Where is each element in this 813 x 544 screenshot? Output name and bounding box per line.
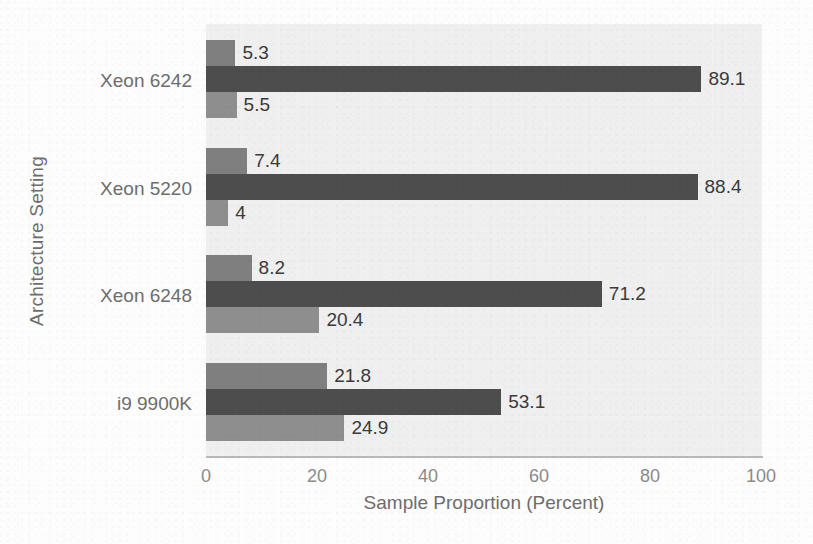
bar-value-bsr-xeon-6248: 8.2 [259,255,285,281]
bar-bsr-i9-9900k[interactable] [206,363,327,389]
bar-value-csr-xeon-6242: 89.1 [708,66,745,92]
x-tick-100: 100 [731,466,791,487]
bar-value-csr-xeon-6248: 71.2 [609,281,646,307]
bar-chart: Architecture Setting Xeon 6242 Xeon 5220… [0,0,813,544]
bar-value-coo-xeon-5220: 4 [235,200,246,226]
bar-coo-xeon-5220[interactable] [206,200,228,226]
bar-value-bsr-xeon-5220: 7.4 [254,148,280,174]
bar-bsr-xeon-6248[interactable] [206,255,252,281]
bar-csr-i9-9900k[interactable] [206,389,501,415]
bar-csr-xeon-5220[interactable] [206,174,698,200]
bar-coo-xeon-6248[interactable] [206,307,319,333]
x-axis-title: Sample Proportion (Percent) [206,492,762,514]
category-axis-labels: Xeon 6242 Xeon 5220 Xeon 6248 i9 9900K [24,0,192,544]
bar-value-csr-i9-9900k: 53.1 [508,389,545,415]
x-tick-20: 20 [287,466,347,487]
x-tick-0: 0 [176,466,236,487]
x-axis-line [206,456,763,458]
x-tick-60: 60 [509,466,569,487]
bar-value-coo-xeon-6248: 20.4 [326,307,363,333]
bar-value-coo-i9-9900k: 24.9 [351,415,388,441]
plot-area: 5.3 89.1 5.5 7.4 88.4 4 8.2 71.2 20.4 21… [206,24,762,458]
bar-coo-xeon-6242[interactable] [206,92,237,118]
x-tick-80: 80 [620,466,680,487]
bar-value-coo-xeon-6242: 5.5 [244,92,270,118]
category-label-xeon-6242: Xeon 6242 [32,70,192,92]
category-label-i9-9900k: i9 9900K [32,393,192,415]
category-label-xeon-5220: Xeon 5220 [32,178,192,200]
bar-value-csr-xeon-5220: 88.4 [705,174,742,200]
bar-value-bsr-xeon-6242: 5.3 [242,40,268,66]
bar-bsr-xeon-6242[interactable] [206,40,235,66]
bar-csr-xeon-6248[interactable] [206,281,602,307]
category-label-xeon-6248: Xeon 6248 [32,285,192,307]
x-tick-40: 40 [398,466,458,487]
bar-csr-xeon-6242[interactable] [206,66,701,92]
bar-bsr-xeon-5220[interactable] [206,148,247,174]
bar-coo-i9-9900k[interactable] [206,415,344,441]
bar-value-bsr-i9-9900k: 21.8 [334,363,371,389]
